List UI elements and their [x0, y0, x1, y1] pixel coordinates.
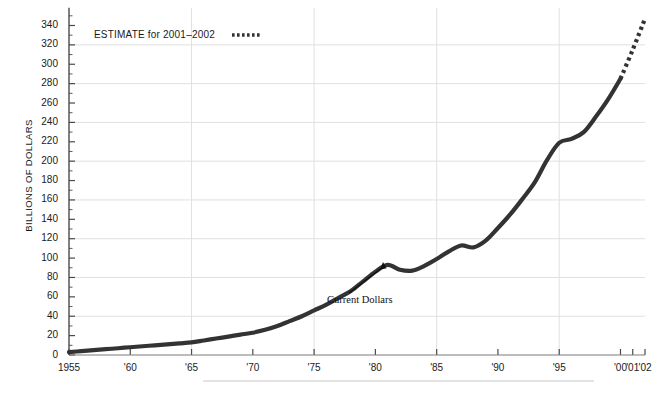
horizontal-gridlines: [69, 45, 645, 316]
x-axis-tick-label: '95: [539, 362, 579, 373]
y-axis-tick-label: 80: [24, 271, 58, 282]
y-axis-tick-label: 300: [24, 58, 58, 69]
y-axis-tick-label: 40: [24, 310, 58, 321]
chart-container: BILLIONS OF DOLLARS 02040608010012014016…: [0, 0, 657, 393]
estimate-line: [620, 19, 645, 79]
legend-estimate-label: ESTIMATE for 2001–2002: [94, 29, 215, 40]
y-axis-tick-label: 340: [24, 19, 58, 30]
y-axis-tick-label: 120: [24, 232, 58, 243]
x-axis-tick-label: 1955: [49, 362, 89, 373]
y-axis-tick-label: 100: [24, 252, 58, 263]
y-axis-tick-label: 160: [24, 193, 58, 204]
annotation-current-dollars: Current Dollars: [327, 294, 393, 305]
x-axis-tick-label: '65: [172, 362, 212, 373]
legend-dotted-swatch: [231, 33, 261, 37]
y-axis-tick-label: 140: [24, 213, 58, 224]
x-axis-tick-label: '75: [294, 362, 334, 373]
current-dollars-line: [69, 79, 620, 352]
x-axis-tick-label: '60: [110, 362, 150, 373]
x-axis-tick-label: '90: [478, 362, 518, 373]
y-axis-tick-label: 200: [24, 155, 58, 166]
y-axis-tick-label: 280: [24, 77, 58, 88]
y-axis-tick-label: 20: [24, 329, 58, 340]
y-axis-tick-label: 260: [24, 97, 58, 108]
line-chart-canvas: [0, 0, 657, 393]
y-axis-tick-label: 60: [24, 290, 58, 301]
x-axis-tick-label: '80: [355, 362, 395, 373]
y-axis-tick-label: 180: [24, 174, 58, 185]
x-axis-tick-label: '02: [625, 362, 657, 373]
x-axis-tick-label: '85: [417, 362, 457, 373]
x-axis-tick-marks: [69, 349, 645, 355]
x-axis-tick-label: '70: [233, 362, 273, 373]
y-axis-tick-label: 240: [24, 116, 58, 127]
y-axis-tick-label: 320: [24, 38, 58, 49]
y-axis-tick-label: 0: [24, 349, 58, 360]
y-axis-tick-label: 220: [24, 135, 58, 146]
y-axis-tick-marks: [69, 16, 75, 355]
